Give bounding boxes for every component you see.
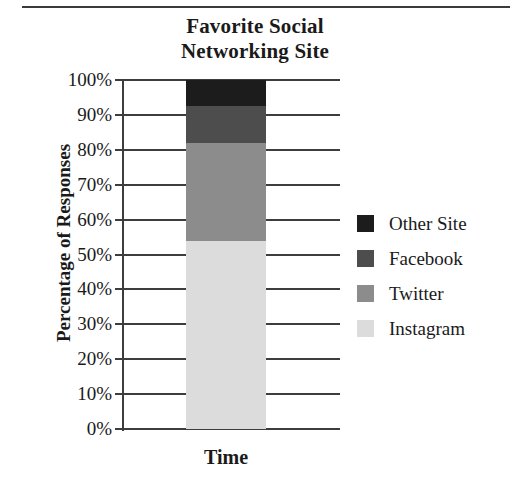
legend-label-other-site: Other Site: [389, 214, 467, 233]
y-tick-label-40: 40%: [42, 279, 112, 298]
tick-mark-0: [115, 428, 124, 430]
y-tick-label-100: 100%: [42, 70, 112, 89]
legend-label-twitter: Twitter: [389, 284, 444, 303]
tick-mark-50: [115, 254, 124, 256]
legend-item-other-site: Other Site: [357, 206, 467, 241]
chart-title-line-2: Networking Site: [110, 39, 400, 64]
bar-segment-instagram: [186, 241, 266, 429]
tick-mark-30: [115, 323, 124, 325]
legend-swatch-facebook: [357, 250, 374, 267]
y-tick-label-80: 80%: [42, 140, 112, 159]
tick-mark-100: [115, 79, 124, 81]
y-tick-label-10: 10%: [42, 384, 112, 403]
tick-mark-90: [115, 114, 124, 116]
y-tick-label-30: 30%: [42, 314, 112, 333]
y-axis-tick-labels: 100%90%80%70%60%50%40%30%20%10%0%: [36, 0, 112, 483]
bar-segment-twitter: [186, 143, 266, 241]
tick-mark-60: [115, 219, 124, 221]
tick-mark-10: [115, 393, 124, 395]
chart-title-line-1: Favorite Social: [110, 14, 400, 39]
stacked-bar-time: [186, 80, 266, 429]
legend-item-facebook: Facebook: [357, 241, 467, 276]
legend-label-instagram: Instagram: [389, 319, 465, 338]
legend-swatch-twitter: [357, 285, 374, 302]
legend-label-facebook: Facebook: [389, 249, 463, 268]
y-tick-label-70: 70%: [42, 175, 112, 194]
y-tick-label-60: 60%: [42, 210, 112, 229]
y-tick-label-90: 90%: [42, 105, 112, 124]
tick-mark-80: [115, 149, 124, 151]
legend: Other SiteFacebookTwitterInstagram: [357, 206, 467, 346]
bar-segment-other-site: [186, 80, 266, 106]
tick-mark-40: [115, 288, 124, 290]
legend-swatch-other-site: [357, 215, 374, 232]
tick-mark-20: [115, 358, 124, 360]
plot-area: [122, 80, 340, 429]
y-tick-label-0: 0%: [42, 419, 112, 438]
chart-title: Favorite Social Networking Site: [110, 14, 400, 64]
legend-item-twitter: Twitter: [357, 276, 467, 311]
legend-swatch-instagram: [357, 320, 374, 337]
tick-mark-70: [115, 184, 124, 186]
y-tick-label-50: 50%: [42, 245, 112, 264]
x-axis-title: Time: [146, 446, 306, 469]
y-tick-label-20: 20%: [42, 349, 112, 368]
bar-segment-facebook: [186, 106, 266, 143]
legend-item-instagram: Instagram: [357, 311, 467, 346]
